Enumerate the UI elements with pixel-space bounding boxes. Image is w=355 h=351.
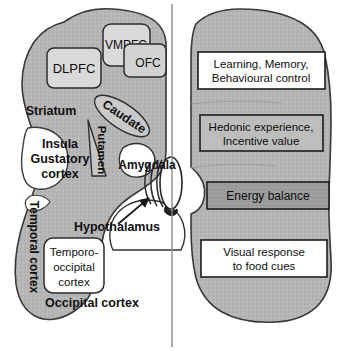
energy-balance-box: Energy balance — [207, 182, 329, 209]
insula-line3: cortex — [41, 167, 79, 181]
visual-response-line1: Visual response — [223, 246, 305, 258]
figure-canvas: DLPFC VMPFC OFC Temporo- occipital corte… — [0, 0, 355, 351]
occipital-cortex-label: Occipital cortex — [45, 296, 139, 310]
insula-line1: Insula — [42, 137, 79, 151]
putamen-label: Putamen — [96, 126, 108, 175]
hypothalamus-label: Hypothalamus — [74, 220, 160, 234]
hedonic-experience-box: Hedonic experience, Incentive value — [200, 115, 323, 151]
dlpfc-label: DLPFC — [53, 61, 96, 76]
temporo-occipital-line2: occipital — [53, 261, 95, 273]
ofc-box: OFC — [124, 44, 166, 77]
amygdala-label: Amygdala — [118, 158, 176, 172]
temporo-occipital-line1: Temporo- — [50, 246, 99, 258]
temporo-occipital-line3: cortex — [58, 276, 90, 288]
learning-memory-line1: Learning, Memory, — [213, 58, 308, 70]
hedonic-experience-line2: Incentive value — [223, 135, 300, 147]
visual-response-line2: to food cues — [233, 260, 296, 272]
striatum-label: Striatum — [26, 104, 77, 118]
energy-balance-label: Energy balance — [226, 189, 310, 203]
visual-response-box: Visual response to food cues — [201, 240, 327, 277]
learning-memory-line2: Behavioural control — [212, 72, 310, 84]
hedonic-experience-line1: Hedonic experience, — [209, 121, 314, 133]
learning-memory-box: Learning, Memory, Behavioural control — [198, 52, 325, 89]
insula-line2: Gustatory — [30, 152, 89, 166]
temporal-cortex-label: Temporal cortex — [27, 201, 41, 294]
ofc-label: OFC — [135, 56, 161, 70]
dlpfc-box: DLPFC — [47, 48, 101, 88]
brain-diagram: DLPFC VMPFC OFC Temporo- occipital corte… — [0, 0, 355, 351]
temporo-occipital-box: Temporo- occipital cortex — [44, 238, 104, 293]
